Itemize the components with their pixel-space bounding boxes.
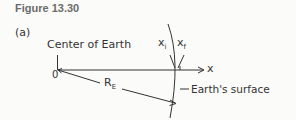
- diagram-graphics: [0, 0, 296, 120]
- radius-line-left: [58, 70, 100, 83]
- xf-pointer: [178, 55, 184, 68]
- radius-line-right: [122, 89, 175, 103]
